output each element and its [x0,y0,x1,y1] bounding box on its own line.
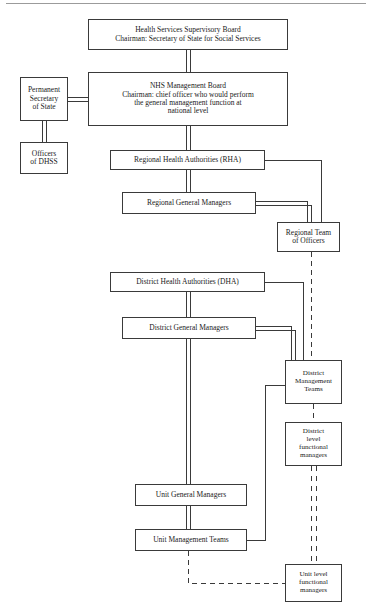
connector-rha-to-regional-general-managers [186,170,190,192]
node-label: Regional General Managers [147,199,231,207]
node-label: Unit level functional managers [299,571,328,595]
node-unit-general-managers[interactable]: Unit General Managers [135,484,247,506]
node-permanent-secretary-of-state[interactable]: Permanent Secretary of State [20,77,68,121]
node-district-general-managers[interactable]: District General Managers [122,317,256,339]
node-label: District level functional managers [299,428,328,460]
node-unit-management-teams[interactable]: Unit Management Teams [135,529,247,551]
node-label: Permanent Secretary of State [28,86,60,111]
connector-dha-to-district-general-managers [186,292,190,317]
node-district-health-authorities[interactable]: District Health Authorities (DHA) [110,272,265,292]
connector-permanent-secretary-to-nhs-board [68,97,88,101]
node-label: District Management Teams [295,370,332,394]
connector-district-management-teams-to-unit-management-teams [247,385,285,540]
node-nhs-management-board[interactable]: NHS Management Board Chairman: chief off… [88,72,288,126]
node-label: NHS Management Board Chairman: chief off… [122,82,254,116]
node-label: Unit Management Teams [153,536,229,544]
connector-rha-to-regional-team-of-officers [265,160,321,222]
connector-nhs-board-to-rha [186,126,190,150]
node-regional-health-authorities[interactable]: Regional Health Authorities (RHA) [110,150,265,170]
org-chart-page: Health Services Supervisory Board Chairm… [0,0,370,612]
node-district-level-functional-managers[interactable]: District level functional managers [285,422,342,466]
node-label: Unit General Managers [156,491,226,499]
connector-hssb-to-nhs-board [186,50,190,72]
node-label: District General Managers [149,324,229,332]
node-label: Regional Team of Officers [286,229,331,246]
connector-district-general-managers-to-unit-general-managers [186,339,190,484]
node-health-services-supervisory-board[interactable]: Health Services Supervisory Board Chairm… [88,19,288,50]
connector-district-general-managers-to-district-management-teams [256,326,295,360]
node-label: Health Services Supervisory Board Chairm… [115,26,260,43]
node-label: Regional Health Authorities (RHA) [134,156,241,164]
connector-dha-to-district-management-teams [265,282,303,360]
connector-district-functional-to-unit-functional [311,466,316,564]
connector-unit-management-teams-to-unit-functional [188,551,285,583]
node-district-management-teams[interactable]: District Management Teams [285,360,342,404]
node-regional-team-of-officers[interactable]: Regional Team of Officers [277,222,340,252]
node-officers-of-dhss[interactable]: Officers of DHSS [20,142,68,174]
connector-regional-general-managers-to-regional-team [256,201,311,222]
node-unit-level-functional-managers[interactable]: Unit level functional managers [285,564,342,602]
connector-permanent-secretary-to-officers-dhss [42,121,46,142]
connector-unit-general-managers-to-unit-management-teams [186,506,190,529]
node-regional-general-managers[interactable]: Regional General Managers [122,192,256,214]
node-label: Officers of DHSS [30,150,57,167]
node-label: District Health Authorities (DHA) [136,278,239,286]
